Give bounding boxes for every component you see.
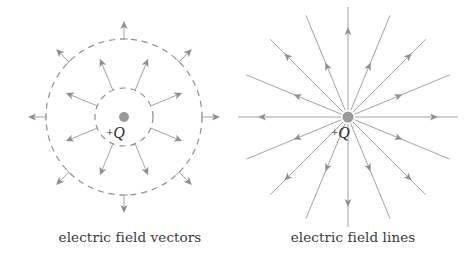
caption-field-lines: electric field lines bbox=[291, 229, 416, 245]
point-charge bbox=[343, 112, 354, 123]
field-line bbox=[270, 39, 343, 112]
charge-symbol: Q bbox=[338, 124, 350, 141]
field-line bbox=[353, 39, 426, 112]
charge-label-lines: +Q bbox=[331, 124, 350, 142]
field-lines-diagram bbox=[0, 0, 475, 255]
field-line bbox=[353, 122, 426, 195]
panel-field-lines: +Q electric field lines bbox=[0, 0, 475, 255]
diagram-stage: +Q electric field vectors +Q electric fi… bbox=[0, 0, 475, 255]
